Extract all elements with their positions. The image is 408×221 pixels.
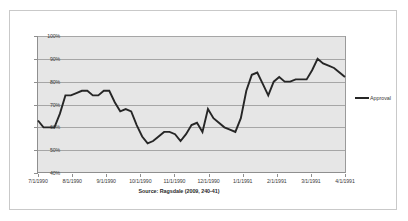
x-axis-tick-label: 12/1/1990 [197,178,219,184]
y-axis-tick-label: 40% [26,170,60,176]
series-layer [38,36,345,173]
plot-area [38,36,346,173]
x-axis-tick-label: 2/1/1991 [267,178,286,184]
y-axis-tick-mark [34,82,37,83]
y-axis-tick-label: 60% [26,124,60,130]
x-axis-tick-mark [106,174,107,177]
x-axis-tick-label: 1/1/1991 [233,178,252,184]
y-axis-tick-label: 50% [26,147,60,153]
series-line-approval [38,59,345,143]
x-axis-tick-mark [311,174,312,177]
x-axis-tick-label: 10/1/1990 [129,178,151,184]
y-axis-tick-label: 100% [26,33,60,39]
y-axis-tick-label: 80% [26,79,60,85]
source-caption: Source: Ragsdale (2009, 240-41) [10,188,396,194]
legend-label-approval: Approval [370,95,391,101]
chart-figure: 40%50%60%70%80%90%100% 7/1/19908/1/19909… [9,10,397,210]
y-axis-tick-label: 70% [26,102,60,108]
x-axis-tick-mark [140,174,141,177]
x-axis-tick-mark [174,174,175,177]
x-axis-tick-mark [243,174,244,177]
y-axis-tick-mark [34,150,37,151]
x-axis-tick-mark [38,174,39,177]
legend: Approval [355,95,391,101]
x-axis-tick-label: 4/1/1991 [335,178,354,184]
y-axis-tick-mark [34,105,37,106]
y-axis-tick-mark [34,36,37,37]
x-axis-tick-label: 3/1/1991 [301,178,320,184]
y-axis-tick-mark [34,59,37,60]
y-axis-tick-label: 90% [26,56,60,62]
x-axis-tick-mark [277,174,278,177]
y-axis-tick-mark [34,173,37,174]
source-caption-text: Source: Ragsdale (2009, 240-41) [139,188,220,194]
x-axis-tick-mark [72,174,73,177]
y-axis-tick-mark [34,127,37,128]
x-axis-tick-mark [345,174,346,177]
x-axis-tick-label: 9/1/1990 [97,178,116,184]
legend-swatch-approval [355,97,369,99]
x-axis-tick-mark [209,174,210,177]
x-axis-tick-label: 7/1/1990 [28,178,47,184]
x-axis-tick-label: 8/1/1990 [62,178,81,184]
x-axis-tick-label: 11/1/1990 [164,178,186,184]
